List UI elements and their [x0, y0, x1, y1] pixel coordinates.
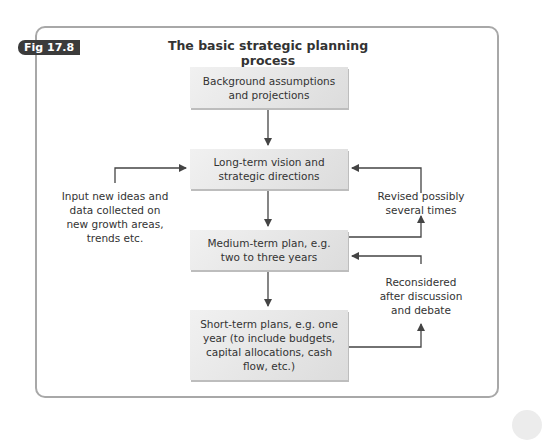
- note-reconsidered: Reconsidered after discussion and debate: [378, 275, 464, 317]
- note-input-new-ideas: Input new ideas and data collected on ne…: [58, 189, 172, 245]
- note-revised: Revised possibly several times: [376, 189, 466, 217]
- box-long-term-vision: Long-term vision and strategic direction…: [190, 149, 348, 189]
- box-background-assumptions: Background assumptions and projections: [190, 67, 348, 108]
- box-short-term-plans: Short-term plans, e.g. one year (to incl…: [190, 310, 348, 380]
- box-medium-term-plan: Medium-term plan, e.g. two to three year…: [190, 230, 348, 270]
- page-corner-circle: [512, 410, 542, 440]
